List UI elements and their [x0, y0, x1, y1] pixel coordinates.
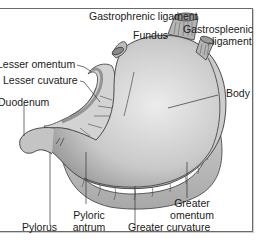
label-pylorus: Pylorus: [22, 222, 57, 233]
label-pyloric-antrum-line2: antrum: [72, 222, 106, 233]
label-pyloric-antrum-line1: Pyloric: [72, 210, 106, 221]
label-greater-omentum-line1: Greater: [168, 198, 216, 209]
label-duodenum: Duodenum: [0, 97, 49, 108]
label-lesser-curvature: Lesser cuvature: [3, 75, 78, 86]
label-gastrophrenic-ligament: Gastrophrenic ligament: [89, 11, 198, 22]
label-fundus: Fundus: [133, 30, 168, 41]
label-greater-curvature: Greater curvature: [128, 222, 210, 233]
label-gastrosplenic-ligament-line2: ligament: [212, 36, 252, 47]
label-body: Body: [226, 88, 250, 99]
label-lesser-omentum: Lesser omentum: [0, 59, 75, 70]
label-gastrosplenic-ligament-line1: Gastrospleenic: [183, 24, 253, 35]
label-greater-omentum-line2: omentum: [168, 210, 216, 221]
